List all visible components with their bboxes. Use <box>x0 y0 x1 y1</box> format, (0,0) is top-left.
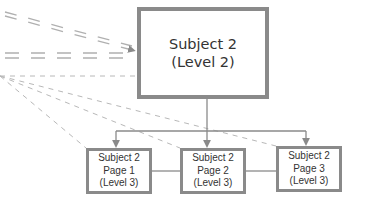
main-node-subject-2: Subject 2 (Level 2) <box>137 7 269 99</box>
child-node-line1: Subject 2 <box>192 152 234 165</box>
child-node-line1: Subject 2 <box>98 152 140 165</box>
child-node-page-3: Subject 2 Page 3 (Level 3) <box>276 146 342 192</box>
child-node-line3: (Level 3) <box>194 177 233 190</box>
main-node-line2: (Level 2) <box>171 53 234 71</box>
child-node-line1: Subject 2 <box>288 150 330 163</box>
child-node-page-2: Subject 2 Page 2 (Level 3) <box>180 148 246 194</box>
child-node-line2: Page 3 <box>293 163 325 176</box>
child-node-line3: (Level 3) <box>290 175 329 188</box>
child-node-line3: (Level 3) <box>100 177 139 190</box>
incoming-double-dashed-horizontal <box>5 53 134 58</box>
child-node-line2: Page 2 <box>197 165 229 178</box>
incoming-double-dashed-arrow <box>5 12 132 50</box>
child-node-line2: Page 1 <box>103 165 135 178</box>
child-node-page-1: Subject 2 Page 1 (Level 3) <box>86 148 152 194</box>
main-node-line1: Subject 2 <box>169 35 237 53</box>
